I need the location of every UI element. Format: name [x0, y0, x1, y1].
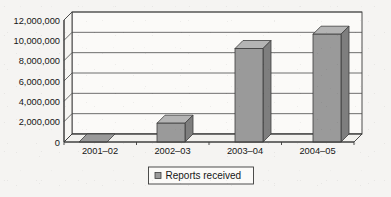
y-tick-label: 2,000,000 — [19, 117, 60, 127]
x-category-label: 2003–04 — [227, 146, 263, 156]
x-category-label: 2002–03 — [154, 146, 190, 156]
y-tick-labels: 12,000,000 10,000,000 8,000,000 6,000,00… — [13, 16, 60, 148]
bar-chart-figure: 12,000,000 10,000,000 8,000,000 6,000,00… — [0, 0, 391, 197]
bar-2003-04[interactable] — [235, 41, 271, 143]
bar-2004-05[interactable] — [313, 26, 349, 142]
legend-label: Reports received — [166, 170, 242, 181]
bar-front-face — [235, 49, 263, 143]
legend-swatch-reports-received — [155, 173, 161, 179]
bar-side-face — [263, 41, 271, 143]
x-category-label: 2001–02 — [82, 146, 118, 156]
bar-2002-03[interactable] — [157, 115, 193, 142]
x-category-labels: 2001–02 2002–03 2003–04 2004–05 — [82, 146, 336, 156]
y-tick-label: 12,000,000 — [13, 16, 60, 26]
bar-front-face — [157, 123, 185, 142]
y-tick-label: 6,000,000 — [19, 77, 60, 87]
x-category-label: 2004–05 — [299, 146, 335, 156]
y-tick-label: 4,000,000 — [19, 97, 60, 107]
bar-front-face — [313, 34, 341, 142]
y-tick-label: 8,000,000 — [19, 56, 60, 66]
chart-canvas: 12,000,000 10,000,000 8,000,000 6,000,00… — [0, 0, 391, 197]
y-tick-label: 10,000,000 — [13, 36, 60, 46]
y-tick-label: 0 — [55, 138, 60, 148]
chart-legend[interactable]: Reports received — [149, 167, 254, 184]
bar-side-face — [341, 26, 349, 142]
